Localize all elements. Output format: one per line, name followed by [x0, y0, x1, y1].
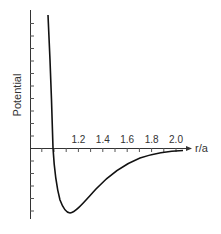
- x-tick-label: 1.6: [120, 134, 134, 145]
- potential-curve: [48, 15, 183, 213]
- x-axis-arrow-icon: [186, 146, 192, 151]
- x-tick-label: 2.0: [169, 134, 183, 145]
- x-tick-label: 1.4: [96, 134, 110, 145]
- x-axis-label: r/a: [195, 142, 209, 154]
- potential-chart: 1.21.41.61.82.0 r/a Potential: [0, 0, 221, 234]
- x-tick-labels: 1.21.41.61.82.0: [71, 134, 183, 145]
- x-tick-label: 1.2: [71, 134, 85, 145]
- x-tick-label: 1.8: [145, 134, 159, 145]
- y-axis-label: Potential: [11, 74, 23, 117]
